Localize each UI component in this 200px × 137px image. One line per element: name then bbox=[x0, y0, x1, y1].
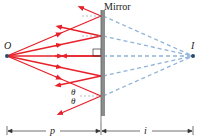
object-distance-label: p bbox=[49, 125, 55, 136]
virtual-rays bbox=[103, 16, 193, 96]
image-distance-label: i bbox=[144, 125, 147, 136]
plane-mirror-diagram: Mirror O I θ θ p i bbox=[0, 0, 200, 137]
reflected-rays bbox=[57, 7, 101, 114]
angle-label-bottom: θ bbox=[71, 96, 76, 106]
mirror bbox=[101, 10, 105, 116]
image-label: I bbox=[190, 40, 195, 51]
right-angle-marker bbox=[93, 49, 101, 56]
mirror-label: Mirror bbox=[104, 1, 131, 12]
object-point bbox=[5, 54, 9, 58]
object-label: O bbox=[4, 40, 11, 51]
dimension-lines bbox=[7, 122, 193, 135]
incident-arrows bbox=[55, 34, 61, 79]
image-point bbox=[191, 54, 195, 58]
